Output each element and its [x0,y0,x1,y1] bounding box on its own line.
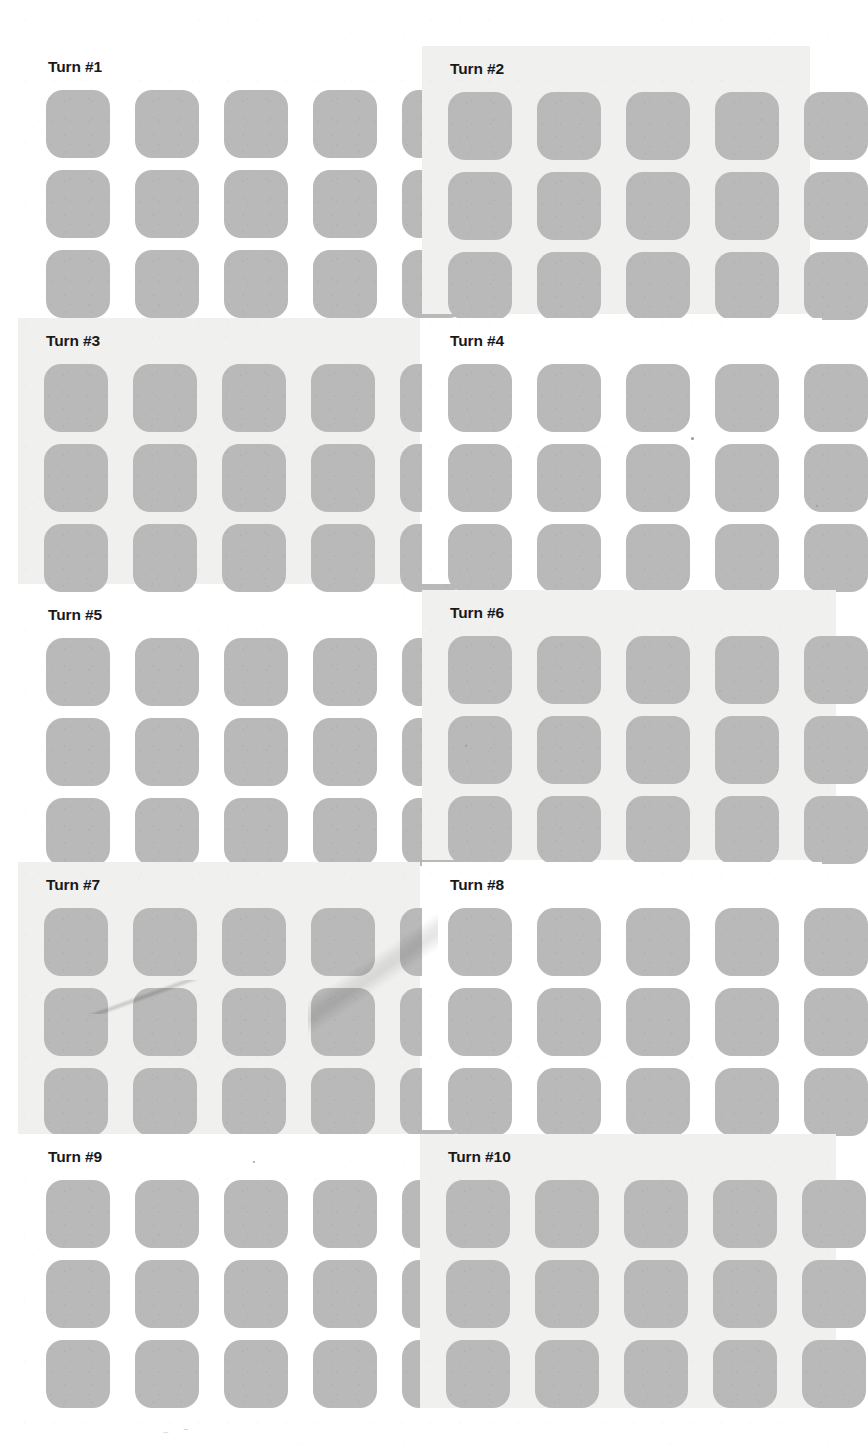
grid-tile[interactable] [448,92,512,160]
grid-tile[interactable] [537,364,601,432]
grid-tile[interactable] [804,524,868,592]
grid-tile[interactable] [222,364,286,432]
grid-tile[interactable] [715,716,779,784]
grid-tile[interactable] [133,444,197,512]
grid-tile[interactable] [713,1180,777,1248]
grid-tile[interactable] [44,988,108,1056]
grid-tile[interactable] [313,1180,377,1248]
grid-tile[interactable] [626,252,690,320]
grid-tile[interactable] [446,1340,510,1408]
grid-tile[interactable] [802,1260,866,1328]
grid-tile[interactable] [715,796,779,864]
grid-tile[interactable] [715,444,779,512]
grid-tile[interactable] [135,718,199,786]
grid-tile[interactable] [133,1068,197,1136]
grid-tile[interactable] [537,1068,601,1136]
grid-tile[interactable] [46,1180,110,1248]
grid-tile[interactable] [448,252,512,320]
grid-tile[interactable] [626,988,690,1056]
grid-tile[interactable] [311,1068,375,1136]
grid-tile[interactable] [313,90,377,158]
grid-tile[interactable] [715,252,779,320]
grid-tile[interactable] [535,1260,599,1328]
grid-tile[interactable] [448,636,512,704]
grid-tile[interactable] [804,364,868,432]
grid-tile[interactable] [535,1180,599,1248]
grid-tile[interactable] [135,170,199,238]
grid-tile[interactable] [135,638,199,706]
grid-tile[interactable] [804,444,868,512]
grid-tile[interactable] [537,252,601,320]
grid-tile[interactable] [222,444,286,512]
grid-tile[interactable] [133,988,197,1056]
grid-tile[interactable] [537,444,601,512]
grid-tile[interactable] [46,90,110,158]
grid-tile[interactable] [224,90,288,158]
grid-tile[interactable] [537,524,601,592]
grid-tile[interactable] [537,172,601,240]
grid-tile[interactable] [46,1260,110,1328]
grid-tile[interactable] [133,524,197,592]
grid-tile[interactable] [804,172,868,240]
grid-tile[interactable] [311,444,375,512]
grid-tile[interactable] [804,252,868,320]
grid-tile[interactable] [626,716,690,784]
grid-tile[interactable] [448,908,512,976]
grid-tile[interactable] [715,636,779,704]
grid-tile[interactable] [626,524,690,592]
grid-tile[interactable] [446,1260,510,1328]
grid-tile[interactable] [133,364,197,432]
grid-tile[interactable] [537,636,601,704]
grid-tile[interactable] [715,92,779,160]
grid-tile[interactable] [804,92,868,160]
grid-tile[interactable] [135,1180,199,1248]
grid-tile[interactable] [311,524,375,592]
grid-tile[interactable] [537,988,601,1056]
grid-tile[interactable] [222,524,286,592]
grid-tile[interactable] [448,444,512,512]
grid-tile[interactable] [626,444,690,512]
grid-tile[interactable] [624,1180,688,1248]
grid-tile[interactable] [626,636,690,704]
grid-tile[interactable] [448,1068,512,1136]
grid-tile[interactable] [224,250,288,318]
grid-tile[interactable] [624,1260,688,1328]
grid-tile[interactable] [448,524,512,592]
grid-tile[interactable] [313,798,377,866]
grid-tile[interactable] [802,1340,866,1408]
grid-tile[interactable] [222,908,286,976]
grid-tile[interactable] [626,172,690,240]
grid-tile[interactable] [802,1180,866,1248]
grid-tile[interactable] [46,718,110,786]
grid-tile[interactable] [537,716,601,784]
grid-tile[interactable] [537,92,601,160]
grid-tile[interactable] [46,1340,110,1408]
grid-tile[interactable] [715,1068,779,1136]
grid-tile[interactable] [715,364,779,432]
grid-tile[interactable] [44,1068,108,1136]
grid-tile[interactable] [44,908,108,976]
grid-tile[interactable] [713,1340,777,1408]
grid-tile[interactable] [224,798,288,866]
grid-tile[interactable] [46,250,110,318]
grid-tile[interactable] [804,908,868,976]
grid-tile[interactable] [313,250,377,318]
grid-tile[interactable] [626,364,690,432]
grid-tile[interactable] [448,716,512,784]
grid-tile[interactable] [224,1180,288,1248]
grid-tile[interactable] [135,798,199,866]
grid-tile[interactable] [313,638,377,706]
grid-tile[interactable] [224,718,288,786]
grid-tile[interactable] [135,1340,199,1408]
grid-tile[interactable] [46,170,110,238]
grid-tile[interactable] [535,1340,599,1408]
grid-tile[interactable] [135,1260,199,1328]
grid-tile[interactable] [46,638,110,706]
grid-tile[interactable] [626,1068,690,1136]
grid-tile[interactable] [804,1068,868,1136]
grid-tile[interactable] [224,170,288,238]
grid-tile[interactable] [537,908,601,976]
grid-tile[interactable] [313,170,377,238]
grid-tile[interactable] [311,908,375,976]
grid-tile[interactable] [44,524,108,592]
